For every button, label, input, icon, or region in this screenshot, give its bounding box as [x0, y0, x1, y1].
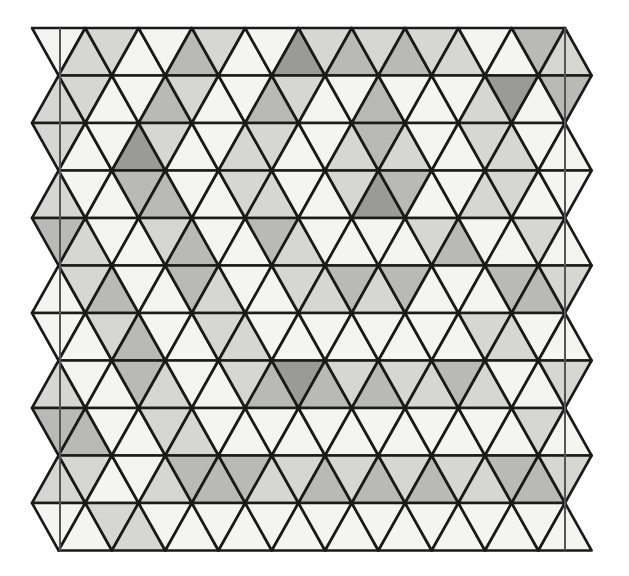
quilt-illustration	[0, 0, 629, 576]
triangle-patches	[32, 28, 592, 551]
